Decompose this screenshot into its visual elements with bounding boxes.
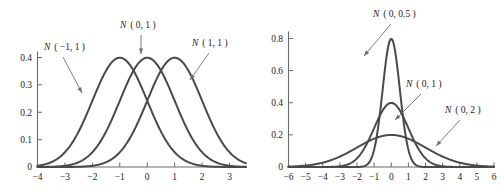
y-tick-label: 0 — [278, 162, 283, 172]
y-tick-label: 0.4 — [271, 98, 283, 108]
x-tick-label: 1 — [406, 172, 411, 182]
x-tick-label: 0 — [145, 172, 150, 182]
left-plot-svg: 00.10.20.30.4−4−3−2−10123N ( −1, 1 )N ( … — [0, 0, 252, 195]
curve-N(0,2) — [289, 135, 495, 167]
x-tick-label: −5 — [301, 172, 311, 182]
x-tick-label: −4 — [318, 172, 328, 182]
x-tick-label: −1 — [369, 172, 379, 182]
x-tick-label: 3 — [227, 172, 232, 182]
x-tick-label: 3 — [440, 172, 445, 182]
x-tick-label: 6 — [492, 172, 497, 182]
curve-label-N(0,2): N ( 0, 2 ) — [444, 105, 481, 116]
plot-right: 00.20.40.60.8−6−5−4−3−2−10123456N ( 0, 0… — [271, 9, 497, 182]
x-tick-label: 0 — [389, 172, 394, 182]
y-tick-label: 0.3 — [20, 80, 32, 90]
x-tick-label: −3 — [335, 172, 345, 182]
x-tick-label: −2 — [87, 172, 97, 182]
curve-label-N(-1,1): N ( −1, 1 ) — [43, 42, 85, 53]
y-tick-label: 0.4 — [20, 53, 32, 63]
x-tick-label: 5 — [475, 172, 480, 182]
plot-left: 00.10.20.30.4−4−3−2−10123N ( −1, 1 )N ( … — [20, 20, 246, 182]
x-tick-label: 1 — [172, 172, 177, 182]
curve-label-N(1,1): N ( 1, 1 ) — [191, 38, 228, 49]
x-tick-label: −3 — [60, 172, 70, 182]
right-plot-svg: 00.20.40.60.8−6−5−4−3−2−10123456N ( 0, 0… — [251, 0, 503, 195]
curve-label-N(0,1): N ( 0, 1 ) — [405, 79, 442, 90]
chart-panel-left: 00.10.20.30.4−4−3−2−10123N ( −1, 1 )N ( … — [0, 0, 252, 195]
y-tick-label: 0.1 — [20, 135, 32, 145]
y-tick-label: 0.6 — [271, 66, 283, 76]
curve-N(1,1) — [38, 58, 247, 167]
x-tick-label: 4 — [457, 172, 462, 182]
annotation-leader — [63, 57, 82, 93]
curve-label-N(0,1): N ( 0, 1 ) — [119, 20, 156, 31]
x-tick-label: −6 — [283, 172, 293, 182]
annotation-arrow-head — [139, 48, 143, 54]
annotation-arrow-head — [78, 87, 82, 93]
y-tick-label: 0 — [27, 162, 32, 172]
y-tick-label: 0.2 — [271, 130, 283, 140]
normal-distribution-figure: 00.10.20.30.4−4−3−2−10123N ( −1, 1 )N ( … — [0, 0, 503, 195]
x-tick-label: −1 — [115, 172, 125, 182]
x-tick-label: 2 — [423, 172, 428, 182]
y-tick-label: 0.8 — [271, 34, 283, 44]
y-tick-label: 0.2 — [20, 108, 32, 118]
x-tick-label: −4 — [32, 172, 42, 182]
x-tick-label: −2 — [352, 172, 362, 182]
curve-label-N(0,0.5): N ( 0, 0.5 ) — [372, 9, 416, 20]
chart-panel-right: 00.20.40.60.8−6−5−4−3−2−10123456N ( 0, 0… — [251, 0, 503, 195]
x-tick-label: 2 — [200, 172, 205, 182]
